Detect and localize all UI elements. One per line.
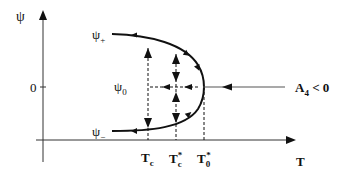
curve-arrow-icon xyxy=(131,33,137,38)
bifurcation-diagram-canvas xyxy=(0,0,340,174)
x-tick-tc-star: Tc* xyxy=(169,151,182,169)
tick-sub: c xyxy=(150,158,154,168)
arrow-down-icon xyxy=(144,118,152,128)
condition-label: A4 < 0 xyxy=(295,81,329,98)
x-axis-label: T xyxy=(296,155,305,168)
arrow-up-icon xyxy=(172,54,180,64)
x-tick-tc: Tc xyxy=(141,151,154,168)
tick-sup: * xyxy=(206,150,211,160)
tick-main: T xyxy=(169,151,178,166)
arrow-up-icon xyxy=(144,48,152,58)
x-axis xyxy=(36,136,296,144)
curve-arrow-icon xyxy=(131,128,137,134)
tick-sub: 0 xyxy=(206,159,211,169)
y-axis xyxy=(39,10,47,162)
psi-plus-sub: + xyxy=(100,35,105,45)
arrow-up-icon xyxy=(172,92,180,102)
condition-main: A xyxy=(295,80,304,95)
psi-zero-label: ψ0 xyxy=(114,80,127,97)
incoming-arrow xyxy=(203,84,285,91)
tick-sub: c xyxy=(178,159,182,169)
y-zero-label: 0 xyxy=(30,81,37,94)
tick-main: T xyxy=(141,150,150,165)
psi-minus-sub: − xyxy=(100,132,105,142)
arrow-left-icon xyxy=(222,84,232,91)
psi-minus-main: ψ xyxy=(92,124,100,139)
condition-rest: < 0 xyxy=(309,80,329,95)
x-axis-arrow-icon xyxy=(286,136,296,144)
arrow-left-icon xyxy=(162,84,170,90)
psi-plus-label: ψ+ xyxy=(92,28,105,45)
tick-main: T xyxy=(197,151,206,166)
psi-minus-label: ψ− xyxy=(92,125,105,142)
curve-arrow-icon xyxy=(185,110,193,118)
flow-arrows xyxy=(144,48,192,128)
arrow-down-icon xyxy=(172,113,180,123)
arrow-down-icon xyxy=(172,72,180,82)
y-axis-arrow-icon xyxy=(39,10,47,20)
y-axis-label: ψ xyxy=(16,10,25,24)
arrow-left-icon xyxy=(184,84,192,90)
x-tick-t0-star: T0* xyxy=(197,151,211,169)
psi-zero-sub: 0 xyxy=(122,87,127,97)
psi-plus-main: ψ xyxy=(92,27,100,42)
tick-sup: * xyxy=(178,150,183,160)
psi-zero-main: ψ xyxy=(114,79,122,94)
